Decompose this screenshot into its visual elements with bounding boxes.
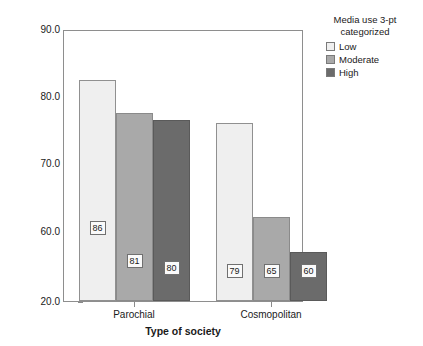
legend-title-line1: Media use 3-pt — [310, 14, 420, 26]
y-tick-label: 70.0 — [20, 159, 60, 169]
bar-cosmopolitan-high[interactable]: 60 — [290, 252, 327, 301]
legend-item-label: Moderate — [339, 54, 379, 65]
y-tick-label: 80.0 — [20, 92, 60, 102]
legend-title-line2: categorized — [310, 26, 420, 38]
bar-parochial-low[interactable]: 86 — [79, 80, 116, 301]
bar-value-label: 79 — [226, 264, 242, 278]
bar-value-label: 60 — [300, 264, 316, 278]
bar-cosmopolitan-moderate[interactable]: 65 — [253, 217, 290, 301]
x-tick-label-cosmopolitan: Cosmopolitan — [240, 309, 301, 321]
y-axis-ticks: 90.0 80.0 70.0 60.0 20.0 — [20, 0, 60, 346]
plot-area: 86 81 80 79 65 60 — [63, 30, 303, 302]
x-tick-mark — [271, 302, 272, 307]
legend-item-label: Low — [339, 41, 356, 52]
legend-item-label: High — [339, 67, 359, 78]
bar-chart: Low <<Religiosity scale>>High 90.0 80.0 … — [0, 0, 423, 346]
legend-item-high[interactable]: High — [326, 66, 359, 79]
legend: Media use 3-pt categorized Low Moderate … — [310, 14, 420, 79]
x-tick-label-parochial: Parochial — [113, 309, 155, 321]
legend-swatch-icon — [326, 55, 335, 64]
y-tick-label: 60.0 — [20, 227, 60, 237]
bar-cosmopolitan-low[interactable]: 79 — [216, 123, 253, 301]
bar-parochial-high[interactable]: 80 — [153, 120, 190, 301]
legend-swatch-icon — [326, 42, 335, 51]
bars-container: 86 81 80 79 65 60 — [64, 31, 302, 301]
bar-parochial-moderate[interactable]: 81 — [116, 113, 153, 301]
x-axis-title: Type of society — [63, 325, 303, 337]
y-tick-label: 90.0 — [20, 25, 60, 35]
legend-swatch-icon — [326, 68, 335, 77]
y-tick-label: 20.0 — [20, 297, 60, 307]
x-tick-mark — [134, 302, 135, 307]
y-tick-mark — [78, 302, 83, 303]
bar-value-label: 65 — [263, 264, 279, 278]
bar-value-label: 80 — [163, 261, 179, 275]
bar-value-label: 81 — [126, 254, 142, 268]
legend-item-moderate[interactable]: Moderate — [326, 53, 379, 66]
bar-value-label: 86 — [89, 221, 105, 235]
legend-items: Low Moderate High — [310, 40, 420, 79]
legend-item-low[interactable]: Low — [326, 40, 356, 53]
